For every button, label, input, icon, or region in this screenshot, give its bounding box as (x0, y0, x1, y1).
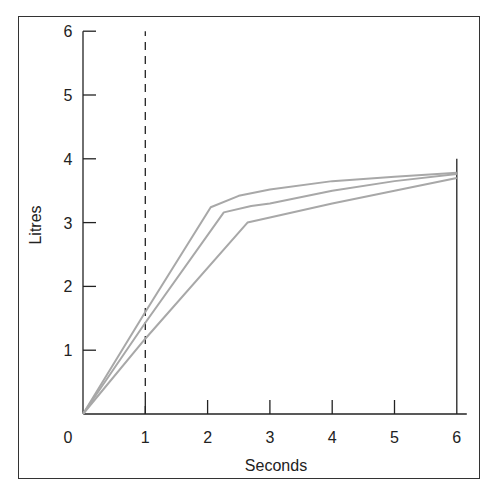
y-tick-label: 1 (64, 342, 73, 359)
x-tick-label: 5 (390, 429, 399, 446)
y-tick-label: 6 (64, 23, 73, 40)
volume-time-chart: 1234560123456 Litres Seconds (0, 0, 495, 494)
x-axis-title: Seconds (245, 457, 307, 474)
y-axis-title: Litres (27, 205, 44, 244)
x-tick-label: 1 (141, 429, 150, 446)
x-tick-label: 6 (452, 429, 461, 446)
y-tick-label: 2 (64, 278, 73, 295)
y-tick-label: 3 (64, 215, 73, 232)
x-tick-label: 3 (265, 429, 274, 446)
volume-curve (83, 178, 457, 414)
y-tick-label: 4 (64, 151, 73, 168)
y-tick-label: 5 (64, 87, 73, 104)
volume-curve (83, 174, 457, 414)
plot-area: 1234560123456 (64, 23, 467, 446)
x-tick-label: 2 (203, 429, 212, 446)
volume-curve (83, 173, 457, 414)
x-tick-label: 0 (64, 429, 73, 446)
x-tick-label: 4 (328, 429, 337, 446)
